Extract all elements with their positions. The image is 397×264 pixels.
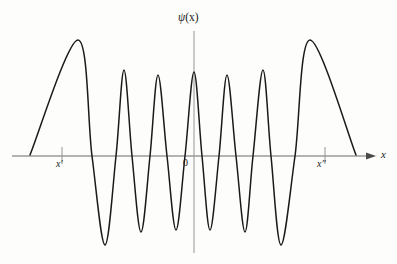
plot-canvas xyxy=(0,0,397,264)
x-axis-arrow-icon xyxy=(366,152,376,159)
wavefunction-figure: ψ(x) x 0 x′ x″ xyxy=(0,0,397,264)
psi-argument: (x) xyxy=(185,11,198,23)
y-axis-label: ψ(x) xyxy=(178,12,199,24)
x-axis-label: x xyxy=(381,149,386,160)
origin-label: 0 xyxy=(183,158,188,168)
wavefunction-curve xyxy=(30,40,356,245)
turning-point-right-label: x″ xyxy=(317,159,326,169)
turning-point-left-label: x′ xyxy=(56,159,63,169)
